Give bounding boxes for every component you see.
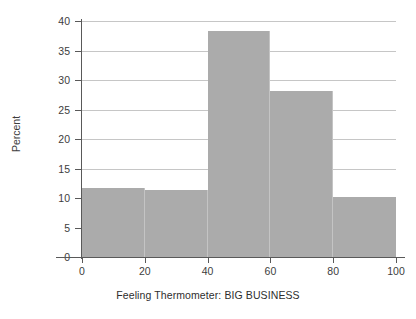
- x-tick-label: 100: [376, 266, 416, 277]
- y-tick-mark: [75, 51, 81, 52]
- x-tick-label: 0: [62, 266, 102, 277]
- x-tick-mark: [145, 258, 146, 263]
- x-tick-mark: [82, 258, 83, 263]
- y-tick-mark: [75, 169, 81, 170]
- x-axis-title: Feeling Thermometer: BIG BUSINESS: [0, 289, 416, 301]
- x-tick-label: 80: [313, 266, 353, 277]
- histogram-bar: [145, 190, 208, 257]
- plot-area: [82, 21, 396, 257]
- y-tick-label: 10: [44, 193, 70, 204]
- x-tick-mark: [270, 258, 271, 263]
- histogram-bar: [333, 197, 396, 257]
- y-tick-mark: [75, 110, 81, 111]
- y-axis-title: Percent: [10, 104, 22, 164]
- y-tick-label: 35: [44, 45, 70, 56]
- x-tick-label: 20: [125, 266, 165, 277]
- histogram-bar: [82, 188, 145, 257]
- x-axis-line: [56, 257, 405, 258]
- y-tick-mark: [75, 21, 81, 22]
- histogram-bar: [208, 31, 271, 257]
- y-tick-mark: [75, 228, 81, 229]
- x-tick-label: 40: [188, 266, 228, 277]
- y-tick-label: 30: [44, 75, 70, 86]
- y-tick-label: 15: [44, 163, 70, 174]
- x-tick-mark: [208, 258, 209, 263]
- x-tick-label: 60: [250, 266, 290, 277]
- x-tick-mark: [333, 258, 334, 263]
- y-tick-label: 40: [44, 16, 70, 27]
- y-tick-label: 5: [44, 222, 70, 233]
- x-tick-mark: [396, 258, 397, 263]
- chart-screenshot: Percent 0510152025303540 020406080100 Fe…: [0, 0, 416, 319]
- gridline-40: [82, 21, 396, 22]
- y-tick-label: 20: [44, 134, 70, 145]
- y-tick-mark: [75, 198, 81, 199]
- y-tick-label: 25: [44, 104, 70, 115]
- y-tick-mark: [75, 139, 81, 140]
- y-tick-mark: [75, 80, 81, 81]
- histogram-figure: Percent 0510152025303540 020406080100 Fe…: [0, 0, 416, 319]
- histogram-bar: [270, 91, 333, 257]
